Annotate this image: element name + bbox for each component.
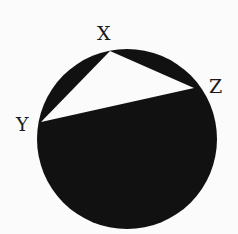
circle-triangle-diagram: X Z Y [0, 0, 238, 234]
vertex-label-x: X [97, 22, 111, 44]
vertex-label-z: Z [209, 75, 222, 97]
vertex-label-y: Y [15, 113, 29, 135]
